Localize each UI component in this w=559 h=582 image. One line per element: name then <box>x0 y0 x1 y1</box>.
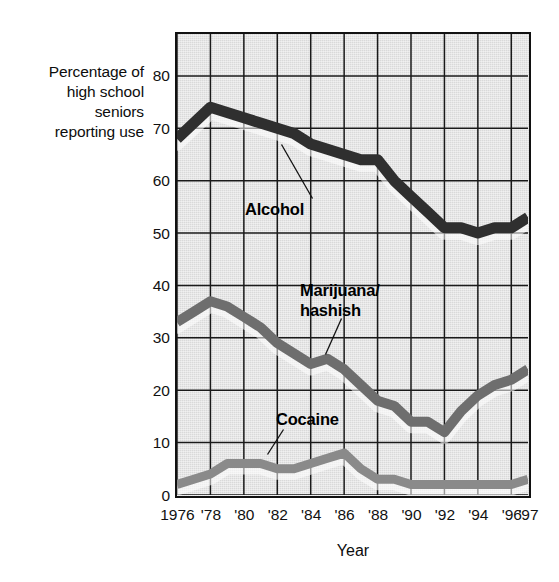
band-shadow-alcohol <box>177 112 528 238</box>
x-tick-label-1978: '78 <box>198 506 224 524</box>
drug-use-trend-chart: Percentage of high school seniors report… <box>0 0 559 582</box>
x-tick-label-1986: '86 <box>332 506 358 524</box>
y-tick-label-70: 70 <box>136 121 170 137</box>
y-axis-caption-line-1: Percentage of <box>8 62 144 82</box>
y-tick-label-0: 0 <box>136 488 170 504</box>
y-tick-label-60: 60 <box>136 173 170 189</box>
x-tick-label-1990: '90 <box>399 506 425 524</box>
y-tick-label-10: 10 <box>136 435 170 451</box>
x-tick-label-1997: '97 <box>516 506 542 524</box>
y-tick-label-80: 80 <box>136 68 170 84</box>
plot-svg <box>177 34 528 495</box>
x-tick-label-1992: '92 <box>432 506 458 524</box>
x-tick-label-1976: 1976 <box>157 506 199 524</box>
plot-area <box>175 32 531 498</box>
series-band-marijuana-hashish <box>177 301 528 432</box>
x-tick-label-1988: '88 <box>365 506 391 524</box>
x-tick-label-1982: '82 <box>265 506 291 524</box>
y-axis-caption: Percentage of high school seniors report… <box>8 62 144 142</box>
y-axis-caption-line-3: seniors <box>8 102 144 122</box>
x-axis-title: Year <box>175 542 531 560</box>
x-tick-label-1984: '84 <box>298 506 324 524</box>
y-tick-label-30: 30 <box>136 330 170 346</box>
gridlines <box>177 34 528 495</box>
y-axis-caption-line-2: high school <box>8 82 144 102</box>
series-label-cocaine: Cocaine <box>276 409 339 429</box>
series-label-marijuana: Marijuana/ hashish <box>300 280 380 320</box>
y-tick-label-40: 40 <box>136 278 170 294</box>
leader-line-1 <box>326 319 342 355</box>
series-band-alcohol <box>177 107 528 233</box>
y-axis-caption-line-4: reporting use <box>8 122 144 142</box>
x-tick-label-1980: '80 <box>231 506 257 524</box>
x-tick-label-1994: '94 <box>465 506 491 524</box>
y-tick-label-50: 50 <box>136 226 170 242</box>
series-label-alcohol: Alcohol <box>245 199 304 219</box>
y-tick-label-20: 20 <box>136 383 170 399</box>
